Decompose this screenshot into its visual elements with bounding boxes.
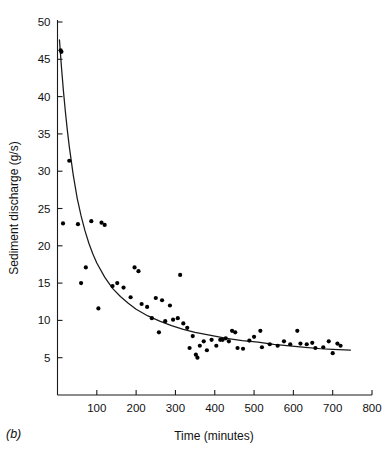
y-tick-label: 40 — [38, 91, 51, 103]
data-point — [96, 306, 100, 310]
data-point — [260, 345, 264, 349]
data-point — [115, 281, 119, 285]
x-axis-ticks — [97, 390, 372, 395]
data-point — [235, 346, 239, 350]
x-tick-label: 800 — [362, 402, 381, 414]
data-point — [298, 341, 302, 345]
x-axis-title: Time (minutes) — [174, 429, 254, 443]
data-point — [205, 348, 209, 352]
data-point — [110, 284, 114, 288]
data-point — [338, 344, 342, 348]
data-point — [268, 342, 272, 346]
data-point — [198, 344, 202, 348]
data-point — [121, 285, 125, 289]
plot-axes — [58, 20, 373, 395]
data-point — [258, 329, 262, 333]
y-tick-label: 50 — [38, 16, 51, 28]
data-point — [61, 221, 65, 225]
data-point — [145, 305, 149, 309]
y-tick-label: 15 — [38, 277, 51, 289]
data-point-group — [59, 48, 343, 360]
data-point — [181, 321, 185, 325]
data-point — [327, 339, 331, 343]
x-tick-label: 300 — [166, 402, 185, 414]
data-point — [103, 223, 107, 227]
x-axis-tick-labels: 100200300400500600700800 — [87, 402, 381, 414]
data-point — [84, 265, 88, 269]
data-point — [76, 222, 80, 226]
data-point — [288, 342, 292, 346]
data-point — [59, 50, 63, 54]
x-tick-label: 400 — [205, 402, 224, 414]
data-point — [136, 269, 140, 273]
data-point — [154, 296, 158, 300]
data-point — [132, 265, 136, 269]
y-tick-label: 20 — [38, 240, 51, 252]
fitted-curve — [59, 40, 350, 350]
y-axis-title: Sediment discharge (g/s) — [7, 141, 21, 274]
data-point — [276, 344, 280, 348]
data-point — [178, 273, 182, 277]
panel-label: (b) — [6, 427, 21, 441]
scatter-plot-chart: 5101520253035404550 10020030040050060070… — [0, 0, 385, 458]
y-tick-label: 10 — [38, 314, 51, 326]
data-point — [313, 346, 317, 350]
data-point — [321, 345, 325, 349]
data-point — [233, 330, 237, 334]
data-point — [176, 316, 180, 320]
data-point — [195, 356, 199, 360]
data-point — [129, 295, 133, 299]
data-point — [310, 341, 314, 345]
y-tick-label: 45 — [38, 53, 51, 65]
x-tick-label: 100 — [87, 402, 106, 414]
data-point — [331, 351, 335, 355]
data-point — [187, 346, 191, 350]
x-tick-label: 700 — [323, 402, 342, 414]
data-point — [241, 347, 245, 351]
data-point — [227, 339, 231, 343]
data-point — [295, 329, 299, 333]
y-tick-label: 5 — [44, 352, 50, 364]
x-tick-label: 200 — [127, 402, 146, 414]
figure-panel: 5101520253035404550 10020030040050060070… — [0, 0, 385, 458]
data-point — [282, 339, 286, 343]
data-point — [160, 298, 164, 302]
data-point — [150, 316, 154, 320]
data-point — [214, 344, 218, 348]
data-point — [191, 334, 195, 338]
data-point — [79, 281, 83, 285]
y-axis-tick-labels: 5101520253035404550 — [38, 16, 51, 364]
data-point — [140, 302, 144, 306]
x-tick-label: 500 — [244, 402, 263, 414]
y-tick-label: 25 — [38, 203, 51, 215]
data-point — [224, 336, 228, 340]
data-point — [67, 159, 71, 163]
data-point — [185, 326, 189, 330]
y-tick-label: 30 — [38, 165, 51, 177]
data-point — [171, 318, 175, 322]
data-point — [202, 339, 206, 343]
data-point — [305, 342, 309, 346]
data-point — [157, 330, 161, 334]
data-point — [168, 303, 172, 307]
data-point — [210, 338, 214, 342]
data-point — [247, 338, 251, 342]
x-tick-label: 600 — [284, 402, 303, 414]
data-point — [89, 219, 93, 223]
data-point — [252, 335, 256, 339]
y-tick-label: 35 — [38, 128, 51, 140]
data-point — [163, 319, 167, 323]
